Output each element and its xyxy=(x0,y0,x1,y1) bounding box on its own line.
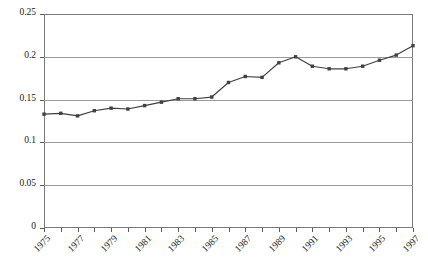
x-tick-mark xyxy=(296,228,297,232)
x-tick-mark xyxy=(312,228,313,232)
y-tick-label: 0.05 xyxy=(0,179,36,189)
plot-area xyxy=(44,14,413,228)
x-tick-mark xyxy=(178,228,179,232)
x-tick-mark xyxy=(413,228,414,232)
x-tick-mark xyxy=(44,228,45,232)
x-tick-label: 1975 xyxy=(28,234,53,259)
gridline-y-0.1 xyxy=(44,142,413,143)
gridline-y-0.05 xyxy=(44,185,413,186)
y-tick-mark xyxy=(40,100,44,101)
x-tick-mark xyxy=(61,228,62,232)
x-tick-mark xyxy=(262,228,263,232)
x-tick-label: 1985 xyxy=(195,234,220,259)
x-tick-mark xyxy=(396,228,397,232)
x-tick-mark xyxy=(212,228,213,232)
x-tick-mark xyxy=(379,228,380,232)
x-tick-mark xyxy=(229,228,230,232)
y-tick-label: 0 xyxy=(0,222,36,232)
x-tick-mark xyxy=(329,228,330,232)
y-tick-mark xyxy=(40,142,44,143)
x-tick-label: 1979 xyxy=(95,234,120,259)
y-tick-label: 0.15 xyxy=(0,94,36,104)
y-tick-mark xyxy=(40,57,44,58)
y-tick-label: 0.25 xyxy=(0,8,36,18)
x-tick-label: 1977 xyxy=(61,234,86,259)
x-tick-mark xyxy=(78,228,79,232)
line-chart: 00.050.10.150.20.25 19751977197919811983… xyxy=(0,0,428,274)
x-tick-mark xyxy=(145,228,146,232)
gridline-y-0.15 xyxy=(44,100,413,101)
y-tick-label: 0.1 xyxy=(0,136,36,146)
x-tick-mark xyxy=(195,228,196,232)
x-tick-mark xyxy=(245,228,246,232)
y-tick-label: 0.2 xyxy=(0,51,36,61)
x-tick-mark xyxy=(128,228,129,232)
x-tick-mark xyxy=(346,228,347,232)
x-tick-label: 1995 xyxy=(363,234,388,259)
x-tick-label: 1983 xyxy=(162,234,187,259)
x-tick-mark xyxy=(363,228,364,232)
x-tick-mark xyxy=(279,228,280,232)
x-tick-label: 1993 xyxy=(330,234,355,259)
x-tick-mark xyxy=(111,228,112,232)
x-tick-label: 1991 xyxy=(296,234,321,259)
x-tick-label: 1981 xyxy=(128,234,153,259)
x-tick-label: 1987 xyxy=(229,234,254,259)
x-tick-mark xyxy=(94,228,95,232)
x-tick-label: 1989 xyxy=(262,234,287,259)
x-tick-label: 1997 xyxy=(397,234,422,259)
gridline-y-0.2 xyxy=(44,57,413,58)
y-tick-mark xyxy=(40,185,44,186)
x-tick-mark xyxy=(161,228,162,232)
y-tick-mark xyxy=(40,14,44,15)
